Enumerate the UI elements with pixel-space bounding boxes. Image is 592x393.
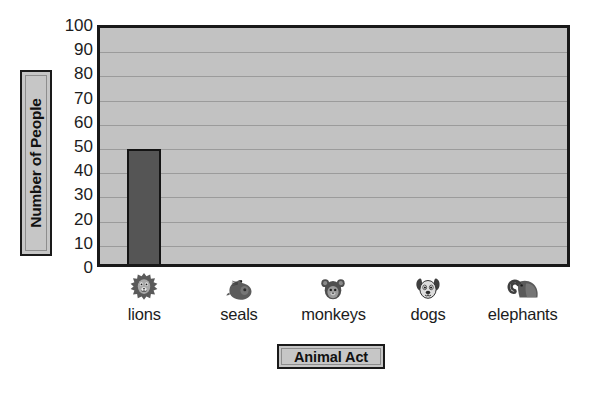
monkey-icon (311, 272, 355, 302)
x-axis-category: monkeys (286, 272, 381, 332)
y-axis-tick-label: 20 (55, 211, 93, 228)
dog-icon (406, 272, 450, 302)
gridline (100, 246, 567, 247)
lion-icon (122, 272, 166, 302)
bar-lions (127, 149, 161, 267)
x-axis-categories: lions seals monkeys (97, 272, 570, 332)
gridline (100, 76, 567, 77)
y-axis-tick-label: 40 (55, 162, 93, 179)
gridline (100, 222, 567, 223)
x-axis-category-label: seals (220, 306, 258, 323)
y-axis-tick-label: 0 (55, 259, 93, 276)
x-axis-category: dogs (381, 272, 476, 332)
gridlines (100, 28, 567, 264)
gridline (100, 149, 567, 150)
x-axis-category: elephants (475, 272, 570, 332)
y-axis-tick-label: 100 (55, 17, 93, 34)
y-axis-tick-label: 80 (55, 65, 93, 82)
x-axis-category: seals (192, 272, 287, 332)
y-axis-tick-label: 70 (55, 90, 93, 107)
x-axis-title-label: Animal Act (294, 349, 368, 365)
elephant-icon (501, 272, 545, 302)
gridline (100, 173, 567, 174)
seal-icon (217, 272, 261, 302)
x-axis-category: lions (97, 272, 192, 332)
gridline (100, 101, 567, 102)
x-axis-title-box: Animal Act (277, 344, 385, 369)
y-axis-tick-label: 50 (55, 138, 93, 155)
y-axis-title-box: Number of People (20, 70, 52, 256)
gridline (100, 197, 567, 198)
x-axis-category-label: lions (128, 306, 161, 323)
y-axis-tick-label: 90 (55, 41, 93, 58)
y-axis-tick-label: 30 (55, 186, 93, 203)
y-axis-tick-label: 10 (55, 235, 93, 252)
x-axis-category-label: monkeys (301, 306, 366, 323)
gridline (100, 52, 567, 53)
y-axis-tick-label: 60 (55, 114, 93, 131)
x-axis-category-label: dogs (411, 306, 446, 323)
x-axis-category-label: elephants (488, 306, 558, 323)
y-axis-title-label: Number of People (27, 98, 45, 227)
y-axis-tick-labels: 0102030405060708090100 (55, 0, 93, 393)
chart-plot-area (97, 25, 570, 267)
gridline (100, 125, 567, 126)
